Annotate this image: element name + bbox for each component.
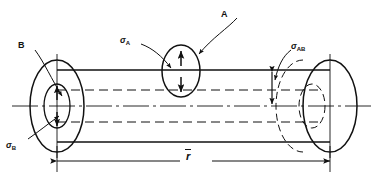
label-element-a: A — [221, 9, 228, 19]
r-symbol: r — [186, 150, 190, 162]
leader-a — [199, 18, 237, 54]
label-element-b: B — [18, 40, 25, 50]
label-sigma-b: σB — [6, 140, 16, 151]
sigma-ab-subscript: AB — [297, 46, 306, 52]
sigma-a-subscript: A — [126, 40, 130, 46]
leader-lines — [28, 18, 291, 139]
figure-canvas: A B σA σB σAB r — [0, 0, 385, 184]
label-sigma-ab: σAB — [291, 41, 306, 52]
cylinder-stress-diagram — [0, 0, 385, 184]
r-bar-wrapper: r — [186, 150, 190, 162]
label-radius-dimension: r — [186, 150, 190, 162]
radius-dimension — [57, 146, 330, 172]
leader-sigma-a — [141, 44, 171, 68]
stress-element-a — [162, 45, 200, 97]
label-sigma-a: σA — [120, 35, 130, 46]
overbar — [185, 149, 191, 150]
sigma-b-subscript: B — [12, 145, 16, 151]
